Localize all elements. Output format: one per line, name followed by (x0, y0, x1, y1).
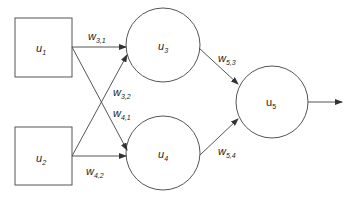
label-w31: w3,1 (88, 30, 106, 44)
node-u1 (15, 18, 72, 77)
edge-u2-u3 (72, 55, 127, 156)
label-w32: w3,2 (113, 86, 131, 100)
label-w41: w4,1 (113, 107, 131, 121)
neural-network-diagram: u1 u2 u3 u4 u5 w3,1 w3,2 w4,1 w4,2 w5,3 … (0, 0, 354, 201)
label-w54: w5,4 (218, 145, 236, 159)
node-u2 (15, 127, 72, 185)
edge-u1-u4 (72, 47, 127, 150)
label-w53: w5,3 (218, 52, 236, 66)
label-w42: w4,2 (86, 165, 104, 179)
